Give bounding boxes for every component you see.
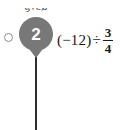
step-pin-icon[interactable] <box>19 17 53 58</box>
step-card: STEP 2 (−12) ÷ 3 4 <box>0 0 126 130</box>
signed-number: −12 <box>62 33 86 48</box>
step-caption-text: STEP <box>23 8 49 14</box>
division-operator: ÷ <box>91 33 101 48</box>
fraction-three-fourths: 3 4 <box>103 26 114 56</box>
svg-text:STEP: STEP <box>23 8 49 14</box>
fraction-numerator: 3 <box>103 26 114 40</box>
math-expression: (−12) ÷ 3 4 <box>57 26 113 56</box>
fraction-denominator: 4 <box>103 42 114 56</box>
step-select-radio[interactable] <box>4 33 13 42</box>
timeline-stem <box>35 46 37 130</box>
